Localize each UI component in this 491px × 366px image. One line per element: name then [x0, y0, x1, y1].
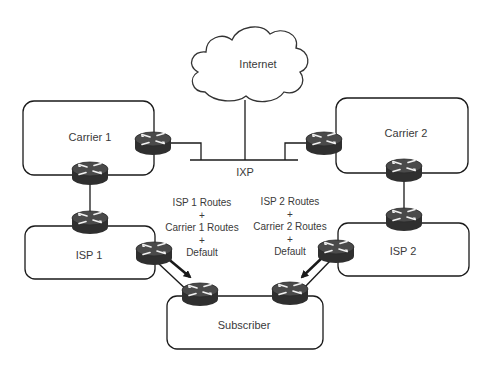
- ixp-label: IXP: [236, 166, 254, 178]
- route-note-line: +: [253, 209, 326, 222]
- internet-label: Internet: [239, 58, 276, 70]
- router-icon: [135, 132, 171, 155]
- route-note-line: ISP 2 Routes: [253, 196, 326, 209]
- router-icon: [386, 208, 422, 231]
- route-note-line: Default: [253, 246, 326, 259]
- subscriber-label: Subscriber: [218, 319, 271, 331]
- router-icon: [72, 162, 108, 185]
- router-icon: [182, 283, 218, 306]
- route-note-line: +: [165, 210, 238, 223]
- network-diagram: [0, 0, 491, 366]
- route-note-line: Carrier 1 Routes: [165, 222, 238, 235]
- carrier1-label: Carrier 1: [69, 131, 112, 143]
- route-note-line: Carrier 2 Routes: [253, 221, 326, 234]
- carrier2-label: Carrier 2: [385, 127, 428, 139]
- router-icon: [386, 159, 422, 182]
- isp2-label: ISP 2: [390, 245, 417, 257]
- route-note-line: +: [165, 235, 238, 248]
- route-note-line: Default: [165, 247, 238, 260]
- route-note-line: ISP 1 Routes: [165, 197, 238, 210]
- route-note-isp2: ISP 2 Routes + Carrier 2 Routes + Defaul…: [253, 196, 326, 259]
- router-icon: [272, 282, 308, 305]
- router-icon: [306, 132, 342, 155]
- router-icon: [72, 211, 108, 234]
- isp1-label: ISP 1: [76, 249, 103, 261]
- route-note-line: +: [253, 234, 326, 247]
- route-note-isp1: ISP 1 Routes + Carrier 1 Routes + Defaul…: [165, 197, 238, 260]
